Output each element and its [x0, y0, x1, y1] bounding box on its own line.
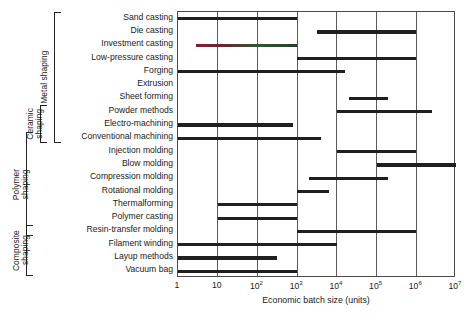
process-label-filament-winding: Filament winding — [109, 239, 173, 248]
gridline-1e3 — [297, 12, 298, 276]
bar-investment-casting — [196, 44, 297, 47]
bar-electro-machining — [178, 123, 293, 126]
group-label: Polymer shaping — [12, 132, 26, 236]
bar-blow-molding — [377, 163, 456, 166]
group-label: Composite shaping — [12, 225, 26, 276]
x-tick-1: 1 — [175, 280, 180, 290]
bar-forging — [178, 70, 345, 73]
process-label-vacuum-bag: Vacuum bag — [125, 265, 173, 274]
bar-rotational-molding — [297, 190, 329, 193]
bar-die-casting — [317, 30, 416, 33]
process-label-thermalforming: Thermalforming — [113, 199, 173, 208]
bar-conventional-machining — [178, 137, 321, 140]
process-label-electro-machining: Electro-machining — [104, 119, 173, 128]
process-label-sand-casting: Sand casting — [123, 13, 173, 22]
x-tick-1e7: 107 — [449, 280, 462, 291]
bar-compression-molding — [309, 177, 388, 180]
bar-sheet-forming — [349, 97, 389, 100]
process-label-sheet-forming: Sheet forming — [119, 92, 173, 101]
bar-low-pressure-casting — [297, 57, 416, 60]
x-tick-1e4: 104 — [329, 280, 342, 291]
process-label-polymer-casting: Polymer casting — [112, 212, 173, 221]
process-label-extrusion: Extrusion — [137, 79, 173, 88]
gridline-1e6 — [416, 12, 417, 276]
process-label-layup-methods: Layup methods — [114, 252, 173, 261]
process-label-conventional-machining: Conventional machining — [81, 132, 173, 141]
process-labels: Sand castingDie castingInvestment castin… — [58, 0, 176, 290]
x-tick-1e6: 106 — [409, 280, 422, 291]
gridline-1e4 — [336, 12, 337, 276]
x-axis-ticks: 110102103104105106107 — [177, 277, 455, 297]
gridline-1e1 — [217, 12, 218, 276]
bar-filament-winding — [178, 243, 337, 246]
process-label-low-pressure-casting: Low-pressure casting — [91, 53, 173, 62]
process-label-die-casting: Die casting — [130, 26, 173, 35]
bar-injection-molding — [337, 150, 416, 153]
x-tick-1e5: 105 — [369, 280, 382, 291]
gridline-1e5 — [376, 12, 377, 276]
process-label-forging: Forging — [144, 66, 173, 75]
process-label-resin-transfer-molding: Resin-transfer molding — [87, 225, 173, 234]
x-tick-1e3: 103 — [290, 280, 303, 291]
bar-layup-methods — [178, 256, 277, 259]
bar-vacuum-bag — [178, 270, 297, 273]
process-label-compression-molding: Compression molding — [90, 172, 173, 181]
process-label-powder-methods: Powder methods — [109, 106, 174, 115]
bar-resin-transfer-molding — [297, 230, 416, 233]
process-label-blow-molding: Blow molding — [122, 159, 173, 168]
bar-sand-casting — [178, 17, 297, 20]
bar-powder-methods — [337, 110, 432, 113]
plot-area — [177, 11, 455, 277]
bar-polymer-casting — [218, 217, 297, 220]
economic-batch-size-chart: Metal shapingCeramic shapingPolymer shap… — [0, 0, 476, 319]
gridline-1e2 — [257, 12, 258, 276]
x-axis-title: Economic batch size (units) — [177, 295, 455, 305]
x-tick-10: 10 — [212, 280, 222, 290]
process-label-investment-casting: Investment casting — [101, 39, 173, 48]
process-label-rotational-molding: Rotational molding — [102, 186, 173, 195]
x-tick-1e2: 102 — [250, 280, 263, 291]
process-label-injection-molding: Injection molding — [109, 146, 174, 155]
bar-thermalforming — [218, 203, 297, 206]
